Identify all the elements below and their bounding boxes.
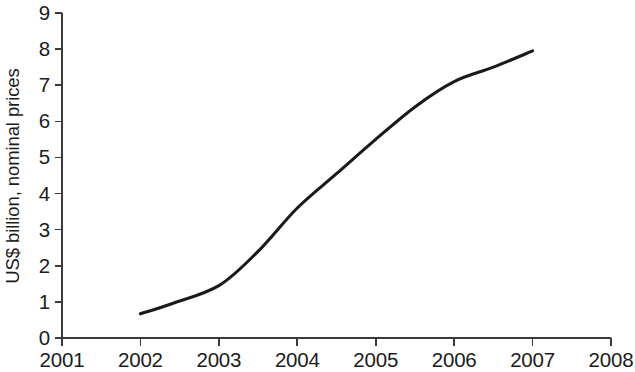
x-axis-tick-label: 2005 (353, 348, 398, 371)
y-axis-tick-label: 7 (39, 73, 50, 96)
y-axis-tick-label: 8 (39, 37, 50, 60)
y-axis-tick-label: 1 (39, 290, 50, 313)
x-axis-tick-label: 2008 (589, 348, 634, 371)
x-axis-tick-label: 2004 (275, 348, 320, 371)
x-axis-tick-label: 2002 (118, 348, 163, 371)
x-axis-tick-label: 2007 (510, 348, 555, 371)
y-axis-title: US$ billion, nominal prices (2, 68, 23, 283)
y-axis-tick-label: 5 (39, 145, 50, 168)
chart-background (0, 0, 635, 372)
y-axis-tick-label: 0 (39, 326, 50, 349)
x-axis-tick-label: 2001 (40, 348, 85, 371)
y-axis-tick-label: 6 (39, 109, 50, 132)
y-axis-tick-label: 9 (39, 1, 50, 24)
y-axis-tick-label: 4 (39, 182, 50, 205)
y-axis-tick-label: 3 (39, 218, 50, 241)
chart-canvas: 0123456789 20012002200320042005200620072… (0, 0, 635, 372)
line-chart: 0123456789 20012002200320042005200620072… (0, 0, 635, 372)
y-axis-tick-label: 2 (39, 254, 50, 277)
x-axis-tick-label: 2006 (432, 348, 477, 371)
x-axis-tick-label: 2003 (196, 348, 241, 371)
